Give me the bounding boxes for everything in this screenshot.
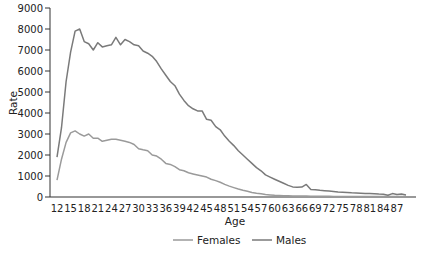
x-tick-label: 54: [241, 203, 254, 214]
plot-area: [57, 29, 406, 197]
series-line-females: [57, 131, 406, 197]
x-tick-label: 57: [255, 203, 268, 214]
x-tick-label: 78: [350, 203, 363, 214]
y-tick-label: 5000: [18, 87, 43, 98]
series-line-males: [57, 29, 406, 195]
y-axis: 0100020003000400050006000700080009000: [18, 3, 50, 203]
y-tick-label: 2000: [18, 150, 43, 161]
x-axis: 1215182124273033363942454851545760636669…: [50, 197, 416, 214]
y-tick-label: 4000: [18, 108, 43, 119]
x-tick-label: 42: [187, 203, 200, 214]
legend-label-females: Females: [197, 234, 240, 246]
legend-label-males: Males: [276, 234, 306, 246]
x-tick-label: 33: [146, 203, 159, 214]
x-tick-label: 66: [295, 203, 308, 214]
x-tick-label: 15: [64, 203, 77, 214]
y-axis-label: Rate: [7, 91, 19, 115]
x-tick-label: 51: [227, 203, 240, 214]
y-tick-label: 0: [37, 192, 43, 203]
legend: Females Males: [173, 234, 306, 246]
x-tick-label: 39: [173, 203, 186, 214]
x-tick-label: 81: [363, 203, 376, 214]
x-tick-label: 84: [377, 203, 390, 214]
y-tick-label: 3000: [18, 129, 43, 140]
x-tick-label: 63: [282, 203, 295, 214]
x-axis-label: Age: [225, 215, 245, 227]
x-tick-label: 48: [214, 203, 227, 214]
x-tick-label: 87: [391, 203, 404, 214]
x-tick-label: 30: [132, 203, 145, 214]
x-tick-label: 72: [323, 203, 336, 214]
x-tick-label: 18: [78, 203, 91, 214]
y-tick-label: 7000: [18, 45, 43, 56]
legend-item-females: Females: [173, 234, 240, 246]
x-tick-label: 60: [268, 203, 281, 214]
y-tick-label: 1000: [18, 171, 43, 182]
x-tick-label: 21: [91, 203, 104, 214]
x-tick-label: 27: [119, 203, 132, 214]
x-tick-label: 75: [336, 203, 349, 214]
x-tick-label: 36: [159, 203, 172, 214]
x-tick-label: 24: [105, 203, 118, 214]
x-tick-label: 69: [309, 203, 322, 214]
x-tick-label: 45: [200, 203, 213, 214]
x-tick-label: 12: [51, 203, 64, 214]
y-tick-label: 8000: [18, 24, 43, 35]
legend-item-males: Males: [252, 234, 306, 246]
y-tick-label: 9000: [18, 3, 43, 14]
line-chart: 0100020003000400050006000700080009000 12…: [0, 0, 426, 256]
y-tick-label: 6000: [18, 66, 43, 77]
